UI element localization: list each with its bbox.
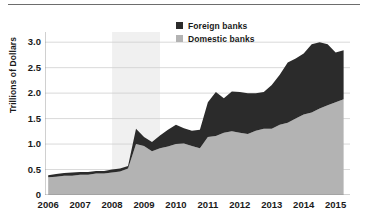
- chart-figure: Trillions of Dollars 3.02.52.01.51.00.50…: [0, 0, 368, 221]
- y-tick-label: 2.5: [1, 63, 41, 73]
- y-tick-label: 0.5: [1, 165, 41, 175]
- y-tick-label: 1.0: [1, 139, 41, 149]
- legend-swatch-icon: [176, 35, 183, 42]
- legend-item: Domestic banks: [176, 32, 296, 45]
- y-tick-label: 0: [1, 190, 41, 200]
- stacked-area-svg: [45, 32, 350, 195]
- y-axis-tick-labels: 3.02.52.01.51.00.50: [0, 32, 41, 195]
- legend-label: Domestic banks: [188, 34, 255, 44]
- y-tick-label: 2.0: [1, 88, 41, 98]
- legend-label: Foreign banks: [188, 21, 247, 31]
- legend-item: Foreign banks: [176, 19, 296, 32]
- y-tick-label: 3.0: [1, 37, 41, 47]
- legend-swatch-icon: [176, 22, 183, 29]
- x-axis-tick-labels: 2006200720082009201020112012201320142015: [45, 200, 350, 216]
- y-tick-label: 1.5: [1, 114, 41, 124]
- x-tick-label: 2015: [316, 200, 356, 210]
- top-rule-divider: [8, 4, 360, 5]
- chart-legend: Foreign banksDomestic banks: [176, 19, 296, 45]
- plot-area: [45, 32, 350, 195]
